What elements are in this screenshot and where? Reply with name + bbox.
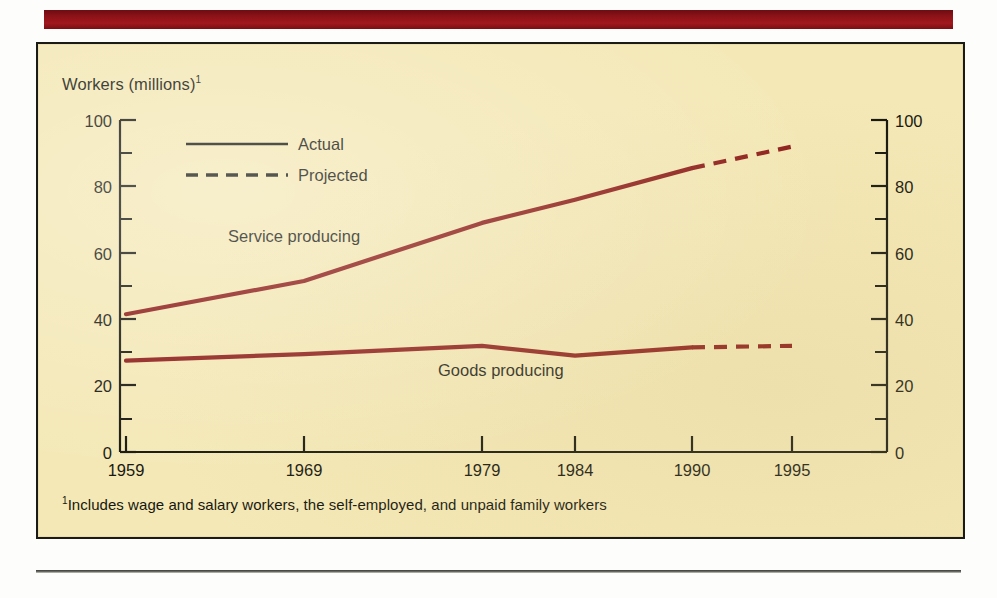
y-tick-right-0: 0 [895,444,904,462]
goods-producing-projected-line [692,346,792,348]
series-paths [126,147,792,361]
y-tick-right-20: 20 [895,377,913,395]
y-tick-right-100: 100 [895,112,923,130]
goods-producing-actual-line [126,346,692,361]
x-axis [120,436,887,452]
x-axis-tick-labels: 1959 1969 1979 1984 1990 1995 [108,461,811,479]
y-tick-right-60: 60 [895,245,913,263]
y-tick-left-20: 20 [94,377,112,395]
figure-page: Workers (millions)1 [0,0,997,598]
left-axis [120,120,136,452]
x-tick-1995: 1995 [774,461,811,479]
plot-area: 100 80 60 40 20 0 [38,44,963,537]
y-tick-right-80: 80 [895,178,913,196]
legend-label-projected: Projected [298,166,368,184]
y-tick-left-60: 60 [94,245,112,263]
y-tick-left-80: 80 [94,178,112,196]
service-producing-actual-line [126,168,692,314]
right-axis [871,120,887,452]
y-tick-left-40: 40 [94,311,112,329]
x-tick-1984: 1984 [557,461,594,479]
left-axis-tick-labels: 100 80 60 40 20 0 [84,112,112,462]
bottom-divider-rule [36,570,961,573]
chart-footnote: 1Includes wage and salary workers, the s… [62,495,607,513]
x-tick-1969: 1969 [286,461,323,479]
top-red-banner [44,10,953,29]
x-tick-1979: 1979 [464,461,501,479]
legend-label-actual: Actual [298,135,344,153]
right-axis-tick-labels: 100 80 60 40 20 0 [895,112,923,462]
y-tick-left-0: 0 [103,444,112,462]
series-annotation-goods-producing: Goods producing [438,361,564,379]
x-tick-1959: 1959 [108,461,145,479]
series-annotation-service-producing: Service producing [228,227,360,245]
service-producing-projected-line [692,147,792,169]
footnote-text: Includes wage and salary workers, the se… [68,496,607,513]
chart-legend: Actual Projected [186,135,368,184]
x-tick-1990: 1990 [674,461,711,479]
y-tick-left-100: 100 [84,112,112,130]
y-tick-right-40: 40 [895,311,913,329]
chart-svg: 100 80 60 40 20 0 [38,44,963,537]
chart-panel: Workers (millions)1 [36,42,965,539]
